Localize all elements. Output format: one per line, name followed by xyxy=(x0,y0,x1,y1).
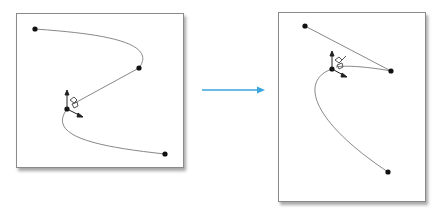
before-curve xyxy=(35,29,165,154)
diagram-overlay xyxy=(0,0,438,208)
before-anchor-points[interactable] xyxy=(32,26,167,156)
move-gizmo-icon[interactable] xyxy=(330,51,347,77)
after-curve xyxy=(305,26,391,172)
transition-arrow-icon xyxy=(202,87,265,94)
move-gizmo-icon[interactable] xyxy=(65,90,83,117)
